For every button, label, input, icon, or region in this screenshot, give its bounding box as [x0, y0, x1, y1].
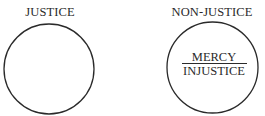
injustice-denominator: INJUSTICE [180, 65, 248, 77]
justice-circle [4, 24, 94, 114]
mercy-numerator: MERCY [180, 51, 248, 63]
